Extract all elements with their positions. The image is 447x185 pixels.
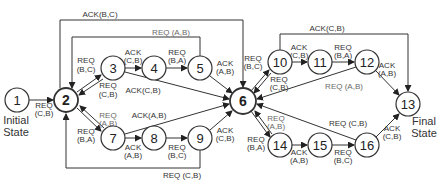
state-diagram: REQ (C,B) REQ (B,C) REQ (C,B) ACK (C,B) … [0,0,447,185]
edge-label: (A,B) [216,67,235,76]
edge-label: ACK(A,B) [132,111,167,120]
edge-label: (B,A) [77,135,96,144]
edge-label: (C,B) [216,134,235,143]
svg-text:12: 12 [360,55,374,70]
edge-10-6 [254,73,271,93]
edge-label: (B,A) [247,143,266,152]
state-node-12: 12 [355,50,379,74]
edge-label: (C,B) [124,56,143,65]
state-node-8: 8 [142,126,166,150]
edge-label: ACK(C,B) [125,86,160,95]
diagram-canvas: REQ (C,B) REQ (B,C) REQ (C,B) ACK (C,B) … [0,0,447,185]
final-state-caption: Final [412,115,436,127]
edge-label: (B,C) [77,65,96,74]
state-node-11: 11 [308,50,332,74]
final-state-caption-2: State [411,127,437,139]
edge-label: (C,B) [270,83,289,92]
edge-label: (C,B) [99,90,118,99]
edge-label: (C,B) [290,51,309,60]
state-node-2: 2 [54,88,78,112]
edge-label: (B,A) [334,51,353,60]
state-node-16: 16 [355,133,379,157]
svg-text:4: 4 [150,61,157,76]
state-node-10: 10 [268,50,292,74]
edge-label: (B,A) [168,56,187,65]
svg-text:13: 13 [401,97,415,112]
svg-text:16: 16 [360,138,374,153]
edge-label: (A,B) [267,122,286,131]
edge-label: (B,C) [334,156,353,165]
edge-label: REQ (C,B) [163,171,202,180]
edge-label: (A,B) [290,156,309,165]
svg-text:10: 10 [273,55,287,70]
edge-label: REQ [99,81,116,90]
edge-label: REQ (C,B) [329,119,368,128]
edge-2-3 [77,75,101,92]
state-node-4: 4 [142,56,166,80]
edge-label: REQ (A,B) [325,82,363,91]
state-node-13: 13 [396,92,420,116]
state-node-7: 7 [101,126,125,150]
edge-label: (B,C) [168,151,187,160]
edge-label: (C,B) [35,109,54,118]
state-node-3: 3 [101,56,125,80]
edge-label: REQ (A,B) [152,28,190,37]
svg-text:8: 8 [150,131,157,146]
edge-label: REQ [77,56,94,65]
edge-label: ACK(B,C) [82,10,117,19]
initial-state-caption: Initial [3,114,29,126]
svg-text:7: 7 [109,131,116,146]
state-node-14: 14 [268,133,292,157]
svg-text:14: 14 [273,138,287,153]
svg-text:6: 6 [239,93,247,109]
edge-label: (C,B) [383,132,402,141]
svg-text:5: 5 [196,61,203,76]
edge-6-10 [251,70,269,91]
svg-text:3: 3 [109,61,116,76]
svg-text:1: 1 [13,93,20,108]
edge-label: (A,B) [124,151,143,160]
svg-text:15: 15 [313,138,327,153]
state-node-5: 5 [188,56,212,80]
state-node-9: 9 [188,126,212,150]
state-node-15: 15 [308,133,332,157]
initial-state-caption-2: State [3,126,29,138]
edge-label: (B,C) [244,62,263,71]
state-node-6: 6 [230,88,256,114]
edge-label: (A,B) [378,69,397,78]
svg-text:2: 2 [62,92,70,108]
nodes: 1 2 3 4 5 6 7 8 9 10 11 12 13 14 15 16 [5,50,420,157]
edge-5-6 [210,76,232,93]
edge-labels: REQ (C,B) REQ (B,C) REQ (C,B) ACK (C,B) … [35,10,402,180]
state-node-1: 1 [5,88,29,112]
svg-text:11: 11 [313,55,327,70]
edge-label: ACK(C,B) [309,24,344,33]
svg-text:9: 9 [196,131,203,146]
